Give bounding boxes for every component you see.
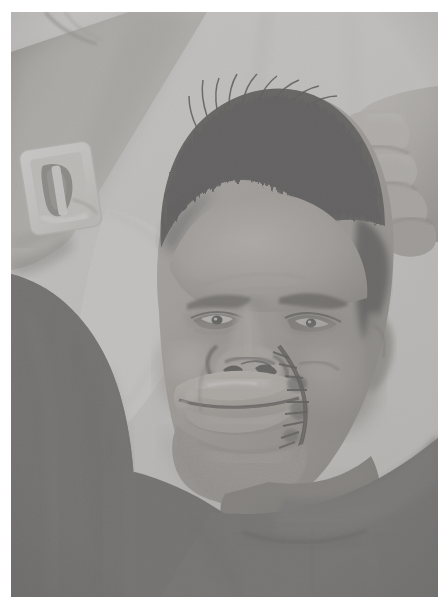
- photo-description: Adult male patient lying supine on a hos…: [0, 0, 1, 1]
- photograph-canvas: [11, 12, 438, 597]
- film-grain: [11, 12, 438, 597]
- clinical-photograph: [11, 12, 438, 597]
- photo-caption: [0, 0, 1, 1]
- screenshot-canvas: Adult male patient lying supine on a hos…: [0, 0, 441, 609]
